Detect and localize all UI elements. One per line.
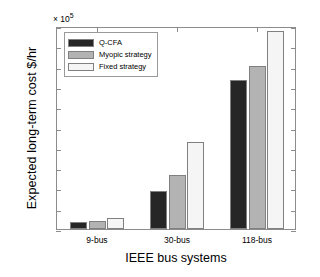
y-axis-tick — [291, 190, 296, 191]
y-axis-tick — [291, 170, 296, 171]
legend-swatch — [68, 63, 94, 71]
x-axis-title: IEEE bus systems — [56, 251, 296, 265]
bar — [150, 191, 167, 229]
y-axis-tick — [291, 69, 296, 70]
y-axis-tick — [291, 89, 296, 90]
y-axis-tick — [291, 150, 296, 151]
bar — [230, 80, 247, 229]
plot-area: 00.20.40.60.811.21.41.61.829-bus30-bus11… — [56, 27, 296, 230]
bar — [249, 66, 266, 229]
y-axis-tick — [56, 170, 61, 171]
y-axis-tick — [291, 109, 296, 110]
plot-inner: 00.20.40.60.811.21.41.61.829-bus30-bus11… — [57, 28, 295, 229]
bar — [169, 175, 186, 229]
y-axis-tick — [56, 150, 61, 151]
y-axis-tick — [56, 231, 61, 232]
y-axis-exponent-power: 5 — [70, 12, 74, 19]
y-axis-tick — [291, 28, 296, 29]
legend-label: Q-CFA — [99, 39, 122, 47]
y-axis-tick — [291, 231, 296, 232]
x-axis-tick — [257, 27, 258, 32]
legend-item: Fixed strategy — [68, 61, 152, 72]
legend-item: Q-CFA — [68, 37, 152, 48]
y-axis-tick — [56, 109, 61, 110]
x-axis-tick-label: 30-bus — [142, 235, 212, 245]
y-axis-tick — [56, 89, 61, 90]
legend: Q-CFAMyopic strategyFixed strategy — [64, 32, 158, 77]
y-axis-tick — [56, 28, 61, 29]
x-axis-tick-label: 9-bus — [62, 235, 132, 245]
legend-swatch — [68, 39, 94, 47]
x-axis-tick — [177, 27, 178, 32]
bar — [89, 221, 106, 229]
y-axis-tick — [56, 69, 61, 70]
legend-label: Fixed strategy — [99, 63, 146, 71]
y-axis-exponent-prefix: × 10 — [53, 14, 70, 24]
y-axis-tick — [56, 211, 61, 212]
y-axis-tick — [56, 190, 61, 191]
figure-canvas: Expected long-term cost $/hr × 105 00.20… — [0, 0, 320, 277]
y-axis-tick — [291, 48, 296, 49]
bar — [70, 222, 87, 229]
y-axis-tick — [291, 211, 296, 212]
y-axis-title: Expected long-term cost $/hr — [25, 28, 39, 228]
bar — [267, 31, 284, 229]
y-axis-exponent-label: × 105 — [53, 12, 74, 24]
bar — [187, 142, 204, 229]
bar — [107, 218, 124, 229]
x-axis-tick-label: 118-bus — [222, 235, 292, 245]
y-axis-tick — [291, 130, 296, 131]
legend-item: Myopic strategy — [68, 49, 152, 60]
legend-swatch — [68, 51, 94, 59]
y-axis-tick — [56, 130, 61, 131]
y-axis-tick — [56, 48, 61, 49]
legend-label: Myopic strategy — [99, 51, 152, 59]
